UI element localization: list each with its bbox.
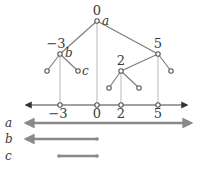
leaf-node-c	[76, 69, 80, 73]
interval-label-b: b	[5, 132, 13, 146]
intervals: a b c	[5, 116, 190, 163]
left-var-label: b	[65, 46, 73, 60]
edge-5-2	[121, 54, 158, 71]
node-minus3	[58, 52, 62, 56]
leaf-var-label-c: c	[82, 64, 89, 78]
tick-label-2: 2	[117, 106, 125, 121]
right-value-label: 5	[154, 36, 162, 51]
edge-5-rightleaf	[158, 54, 171, 71]
leaf-node	[45, 69, 49, 73]
tick-label-5: 5	[154, 106, 162, 121]
tick-label-minus3: −3	[48, 106, 67, 121]
mid-value-label: 2	[117, 53, 125, 68]
node-5	[156, 52, 160, 56]
bst-interval-diagram: 0 a −3 b c 5 2 −3 0 2 5 a b c	[0, 0, 209, 170]
root-var-label: a	[102, 14, 109, 28]
leaf-node	[169, 69, 173, 73]
number-line: −3 0 2 5	[26, 103, 187, 121]
root-value-label: 0	[93, 3, 101, 18]
tree-labels: 0 a −3 b c 5 2	[46, 3, 162, 78]
node-root-0	[95, 19, 99, 23]
drop-lines	[60, 21, 158, 105]
leaf-node	[137, 86, 141, 90]
interval-label-a: a	[5, 116, 12, 130]
leaf-node	[107, 86, 111, 90]
edge-2-leftleaf	[109, 71, 121, 88]
edge-2-rightleaf	[121, 71, 139, 88]
interval-c-start	[57, 154, 61, 158]
interval-c-end	[95, 154, 99, 158]
edge-minus3-leftleaf	[47, 54, 60, 71]
tick-label-0: 0	[93, 106, 101, 121]
interval-b-endpoint	[95, 137, 99, 141]
interval-label-c: c	[5, 149, 12, 163]
left-value-label: −3	[46, 36, 65, 51]
node-2	[119, 69, 123, 73]
